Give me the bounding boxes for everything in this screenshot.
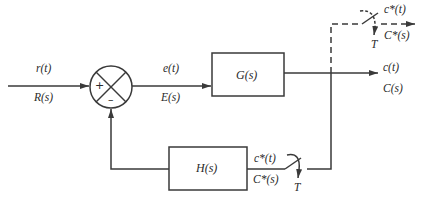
feedback-sampler-period-label: T — [294, 181, 300, 193]
output-time-label: c(t) — [383, 61, 399, 73]
output-sampler-time-label: c*(t) — [384, 3, 406, 15]
output-sampler-laplace-label: C*(s) — [384, 29, 410, 41]
feedback-path-right — [307, 73, 331, 169]
output-sampler-period-label: T — [371, 38, 377, 50]
feedback-sampler-time-label: c*(t) — [254, 152, 276, 164]
output-sampler-path — [331, 24, 362, 73]
feedback-block-label: H(s) — [196, 161, 217, 176]
forward-block-label: G(s) — [236, 68, 257, 83]
input-time-label: r(t) — [36, 62, 51, 74]
feedback-sampler-laplace-label: C*(s) — [253, 173, 279, 185]
plus-sign: + — [95, 79, 104, 92]
minus-sign: – — [108, 93, 114, 106]
feedback-arrow — [111, 109, 169, 169]
input-laplace-label: R(s) — [34, 91, 53, 103]
error-time-label: e(t) — [163, 62, 179, 74]
block-diagram: r(t) R(s) + – e(t) E(s) G(s) c(t) C(s) c… — [0, 0, 422, 205]
error-laplace-label: E(s) — [161, 91, 180, 103]
output-laplace-label: C(s) — [383, 82, 403, 94]
